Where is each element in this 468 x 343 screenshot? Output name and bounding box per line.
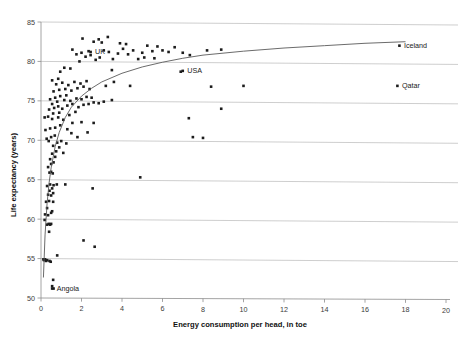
- data-point: [50, 223, 53, 226]
- y-axis-title: Life expectancy (years): [9, 133, 18, 217]
- data-point: [80, 51, 83, 54]
- x-axis-title: Energy consumption per head, in toe: [173, 320, 307, 329]
- data-point: [143, 56, 146, 59]
- scatter-chart: 5055606570758085 02468101214161820 UKUSA…: [0, 0, 468, 343]
- gridline-y-80: [41, 61, 458, 64]
- data-point: [220, 48, 223, 51]
- data-point: [80, 98, 83, 101]
- y-tick-label-80: 80: [27, 57, 35, 66]
- gridline-y-70: [41, 140, 458, 143]
- data-point: [52, 90, 55, 93]
- data-point: [71, 122, 74, 125]
- gridline-y-65: [41, 180, 458, 183]
- x-tick-label-0: 0: [39, 304, 43, 313]
- data-point: [51, 172, 54, 175]
- data-point: [122, 48, 125, 51]
- x-tick-label-16: 16: [361, 305, 369, 314]
- data-point: [85, 96, 88, 99]
- data-point: [78, 60, 81, 63]
- y-tick-labels: 5055606570758085: [27, 18, 35, 303]
- annotation-label-iceland: Iceland: [404, 41, 427, 50]
- data-point: [63, 99, 66, 102]
- gridline-y-85: [41, 22, 458, 25]
- data-point: [82, 239, 85, 242]
- data-point: [91, 187, 94, 190]
- data-point: [107, 36, 110, 39]
- x-tick-label-12: 12: [280, 305, 288, 314]
- data-point: [47, 140, 50, 143]
- data-point: [51, 103, 54, 106]
- annotation-label-angola: Angola: [57, 284, 79, 293]
- data-point: [75, 53, 78, 56]
- x-tick-label-10: 10: [240, 305, 248, 314]
- y-tick-label-70: 70: [27, 136, 35, 145]
- data-point: [49, 98, 52, 101]
- data-point: [74, 111, 77, 114]
- data-point: [181, 51, 184, 54]
- y-tick-label-75: 75: [27, 96, 35, 105]
- data-point: [54, 156, 57, 159]
- x-tick-label-14: 14: [321, 305, 329, 314]
- data-point: [167, 51, 170, 54]
- data-point: [153, 57, 156, 60]
- data-point: [119, 42, 122, 45]
- data-point: [202, 137, 205, 140]
- data-point: [189, 54, 192, 57]
- data-point: [45, 137, 48, 140]
- data-point: [49, 260, 52, 263]
- annotation-label-uk: UK: [95, 47, 105, 56]
- data-point: [51, 118, 54, 121]
- gridline-y-60: [41, 219, 458, 222]
- data-points: [42, 36, 245, 290]
- gridline-y-55: [41, 259, 458, 262]
- data-point: [94, 59, 97, 62]
- annotated-point-marker-usa: [181, 70, 184, 73]
- data-point: [53, 107, 56, 110]
- data-point: [141, 51, 144, 54]
- data-point: [52, 112, 55, 115]
- data-point: [69, 100, 72, 103]
- data-point: [102, 100, 105, 103]
- annotated-point-marker-uk: [89, 51, 92, 54]
- data-point: [92, 40, 95, 43]
- data-point: [51, 210, 54, 213]
- annotation-label-usa: USA: [187, 66, 202, 75]
- annotated-point-marker-qatar: [396, 85, 399, 88]
- chart-canvas: 5055606570758085 02468101214161820 UKUSA…: [0, 0, 468, 343]
- data-point: [58, 111, 61, 114]
- data-point: [132, 49, 135, 52]
- data-point: [63, 66, 66, 69]
- y-tick-label-65: 65: [27, 175, 35, 184]
- data-point: [52, 200, 55, 203]
- data-point: [65, 94, 68, 97]
- data-point: [68, 114, 71, 117]
- data-point: [64, 183, 67, 186]
- data-point: [146, 44, 149, 47]
- data-point: [61, 81, 64, 84]
- data-point: [53, 134, 56, 137]
- data-point: [48, 200, 51, 203]
- y-tick-label-85: 85: [27, 18, 35, 27]
- data-point: [49, 158, 52, 161]
- data-point: [58, 146, 61, 149]
- data-point: [60, 140, 63, 143]
- gridlines: [41, 22, 458, 262]
- data-point: [57, 77, 60, 80]
- x-tick-label-2: 2: [80, 304, 84, 313]
- data-point: [156, 45, 159, 48]
- data-point: [85, 80, 88, 83]
- data-point: [65, 142, 68, 145]
- data-point: [206, 49, 209, 52]
- y-tick-label-55: 55: [27, 254, 35, 263]
- data-point: [55, 150, 58, 153]
- data-point: [70, 89, 73, 92]
- data-point: [70, 132, 73, 135]
- data-point: [51, 187, 54, 190]
- data-point: [47, 115, 50, 118]
- data-point: [89, 54, 92, 57]
- data-point: [48, 230, 51, 233]
- data-point: [242, 85, 245, 88]
- data-point: [66, 128, 69, 131]
- data-point: [52, 279, 55, 282]
- data-point: [55, 83, 58, 86]
